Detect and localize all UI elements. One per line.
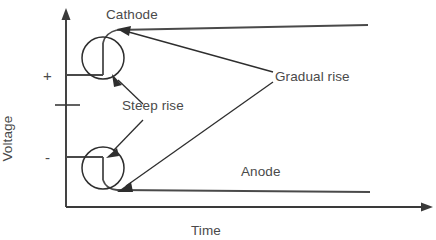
y-axis-negative-tick-label: -: [45, 150, 50, 165]
x-axis-label: Time: [191, 224, 221, 238]
y-axis-arrowhead: [62, 8, 71, 20]
gradual-rise-arrowhead-lower: [117, 182, 133, 192]
diagram-canvas: [0, 0, 436, 240]
label-gradual-rise: Gradual rise: [275, 70, 350, 84]
voltage-time-diagram: Cathode Steep rise Gradual rise Anode Ti…: [0, 0, 436, 240]
y-axis-label: Voltage: [1, 116, 15, 162]
anode-gradual-rise-segment: [117, 190, 370, 192]
axis-group: [62, 8, 434, 212]
gradual-rise-arrowhead-upper: [117, 26, 131, 36]
steep-rise-leader-lower: [113, 120, 143, 151]
label-anode: Anode: [241, 165, 281, 179]
gradual-rise-leader-upper: [125, 31, 273, 72]
cathode-curve-group: [66, 25, 368, 75]
y-axis-positive-tick-label: +: [43, 68, 52, 83]
label-cathode: Cathode: [106, 8, 158, 22]
label-steep-rise: Steep rise: [122, 99, 184, 113]
steep-rise-arrowhead-upper: [112, 74, 122, 87]
x-axis-arrowhead: [421, 203, 433, 212]
cathode-gradual-rise-segment: [117, 25, 368, 30]
